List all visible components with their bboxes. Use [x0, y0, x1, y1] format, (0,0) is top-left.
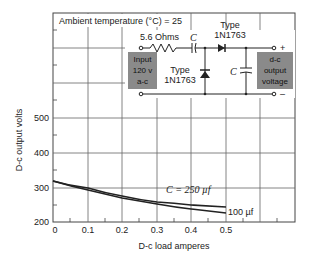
shunt-cap-label: C: [230, 66, 237, 77]
y-tick-400: 400: [34, 148, 49, 158]
y-axis-title: D-c output volts: [14, 108, 24, 171]
resistor-label: 5.6 Ohms: [140, 32, 180, 42]
x-tick-0.2: 0.2: [116, 225, 129, 235]
input-line1: Input: [134, 55, 153, 64]
x-tick-0.5: 0.5: [220, 225, 233, 235]
chart-canvas: 200 300 400 500 0 0.1 0.2 0.3 0.4 0.5 D-…: [0, 0, 310, 263]
x-tick-0.3: 0.3: [151, 225, 164, 235]
label-c250: C = 250 µf: [166, 184, 212, 195]
diode-shunt-part: 1N1763: [164, 75, 196, 85]
plus-terminal: +: [280, 43, 285, 53]
diode-top-type: Type: [220, 20, 240, 30]
x-minor-ticks: [70, 218, 277, 222]
y-minor-ticks: [53, 30, 57, 205]
minus-terminal: –: [280, 89, 285, 99]
diode-top-part: 1N1763: [214, 30, 246, 40]
x-tick-0: 0: [52, 225, 57, 235]
y-tick-300: 300: [34, 183, 49, 193]
label-c100: 100 µf: [228, 207, 254, 217]
series-cap-label: C: [190, 32, 197, 43]
diode-shunt-type: Type: [170, 65, 190, 75]
ambient-temperature-label: Ambient temperature (°C) = 25: [59, 16, 182, 26]
x-axis-title: D-c load amperes: [138, 241, 210, 251]
y-tick-500: 500: [34, 113, 49, 123]
output-line2: output: [264, 66, 287, 75]
x-tick-0.1: 0.1: [82, 225, 95, 235]
x-tick-0.4: 0.4: [185, 225, 198, 235]
input-line2: 120 v: [133, 66, 153, 75]
output-line3: voltage: [262, 77, 288, 86]
input-line3: a-c: [137, 77, 148, 86]
output-line1: d-c: [269, 55, 280, 64]
y-tick-200: 200: [34, 217, 49, 227]
